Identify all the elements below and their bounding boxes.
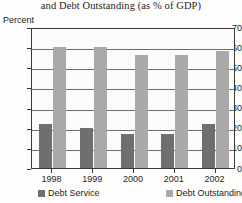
x-axis-tick-mark	[51, 169, 52, 173]
x-axis-tick-mark	[174, 169, 175, 173]
chart-title: and Debt Outstanding (as % of GDP)	[0, 0, 242, 12]
x-axis-tick-label-2001: 2001	[154, 174, 194, 184]
x-axis-tick-mark	[133, 169, 134, 173]
bar-debt-outstanding-2002	[216, 51, 229, 168]
x-axis-tick-mark	[92, 169, 93, 173]
bar-debt-outstanding-2000	[135, 55, 148, 168]
bar-debt-service-1998	[39, 124, 52, 168]
plot-area	[31, 28, 235, 169]
chart-legend: Debt ServiceDebt Outstanding	[0, 187, 242, 201]
bar-debt-service-2000	[121, 134, 134, 168]
x-axis-tick-mark	[215, 169, 216, 173]
legend-entry-debt-service[interactable]: Debt Service	[38, 187, 100, 199]
x-axis-tick-label-2002: 2002	[195, 174, 235, 184]
bar-debt-service-2002	[202, 124, 215, 168]
x-axis: 19981999200020012002	[31, 169, 235, 185]
x-axis-tick-label-1998: 1998	[31, 174, 71, 184]
bar-debt-service-2001	[161, 134, 174, 168]
bar-debt-outstanding-2001	[175, 55, 188, 168]
bar-debt-outstanding-1999	[94, 47, 107, 168]
x-axis-tick-label-2000: 2000	[113, 174, 153, 184]
legend-label: Debt Service	[48, 188, 100, 198]
legend-swatch-icon	[166, 190, 173, 197]
legend-swatch-icon	[38, 190, 45, 197]
legend-label: Debt Outstanding	[176, 188, 242, 198]
y-axis-title: Percent	[3, 15, 34, 25]
legend-entry-debt-outstanding[interactable]: Debt Outstanding	[166, 187, 242, 199]
chart-figure: and Debt Outstanding (as % of GDP) Perce…	[0, 0, 242, 203]
bar-debt-outstanding-1998	[53, 47, 66, 168]
x-axis-tick-label-1999: 1999	[72, 174, 112, 184]
bar-debt-service-1999	[80, 128, 93, 168]
